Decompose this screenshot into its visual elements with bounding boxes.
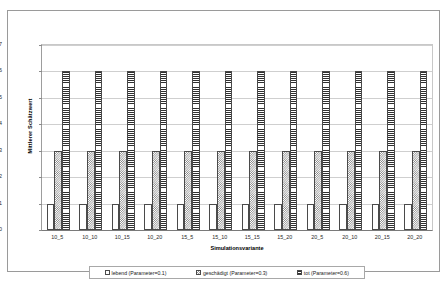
y-axis-tick-label: 0.6 xyxy=(0,67,2,73)
y-axis-tick-label: 0.2 xyxy=(0,173,2,179)
bar-group xyxy=(144,45,167,230)
legend-item[interactable]: tot (Parameter=0.6) xyxy=(297,270,349,276)
bar-group xyxy=(372,45,395,230)
x-axis-tick-label: 20_10 xyxy=(342,234,357,240)
bar xyxy=(282,151,290,230)
plot-area xyxy=(41,44,433,231)
bar xyxy=(307,204,315,230)
bar-group xyxy=(79,45,102,230)
x-axis-title: Simulationsvariante xyxy=(41,245,433,251)
y-axis-tick-label: 0.3 xyxy=(0,147,2,153)
bar xyxy=(412,151,420,230)
x-axis-tick-label: 10_15 xyxy=(115,234,130,240)
bar xyxy=(242,204,250,230)
bar-group xyxy=(307,45,330,230)
bar xyxy=(47,204,55,230)
bar-group xyxy=(177,45,200,230)
y-axis-title: Mittlerer Schätzwert xyxy=(27,61,33,191)
bar xyxy=(339,204,347,230)
bar-group xyxy=(209,45,232,230)
y-axis-tick-label: 0.1 xyxy=(0,200,2,206)
legend-swatch-icon xyxy=(297,270,302,275)
bar xyxy=(314,151,322,230)
bar xyxy=(379,151,387,230)
bar xyxy=(87,151,95,230)
bar xyxy=(119,151,127,230)
bar xyxy=(112,204,120,230)
y-axis-tickmark xyxy=(39,230,42,231)
x-axis-tick-label: 20_15 xyxy=(375,234,390,240)
bar xyxy=(225,71,233,230)
bar xyxy=(177,204,185,230)
chart-screenshot: Mittlerer Schätzwert 0.00.10.20.30.40.50… xyxy=(0,0,447,283)
x-axis-tick-label: 20_5 xyxy=(311,234,323,240)
bars-layer xyxy=(42,45,432,230)
legend-label: geschädigt (Parameter=0.3) xyxy=(203,270,267,276)
bar xyxy=(209,204,217,230)
bar-group xyxy=(112,45,135,230)
x-axis-tick-label: 10_20 xyxy=(147,234,162,240)
x-axis-tick-label: 15_5 xyxy=(181,234,193,240)
y-axis-tick-label: 0.5 xyxy=(0,94,2,100)
bar xyxy=(347,151,355,230)
chart-legend: lebend (Parameter=0.1)geschädigt (Parame… xyxy=(89,266,365,279)
bar xyxy=(95,71,103,230)
bar xyxy=(249,151,257,230)
bar xyxy=(404,204,412,230)
bar xyxy=(144,204,152,230)
bar xyxy=(127,71,135,230)
bar xyxy=(79,204,87,230)
legend-label: lebend (Parameter=0.1) xyxy=(111,270,166,276)
x-axis-tick-label: 15_20 xyxy=(277,234,292,240)
legend-swatch-icon xyxy=(196,270,201,275)
y-axis-tick-label: 0.4 xyxy=(0,120,2,126)
bar-group xyxy=(339,45,362,230)
bar xyxy=(387,71,395,230)
bar xyxy=(62,71,70,230)
bar xyxy=(322,71,330,230)
bar xyxy=(54,151,62,230)
bar xyxy=(217,151,225,230)
bar xyxy=(160,71,168,230)
x-axis-tick-label: 10_10 xyxy=(82,234,97,240)
bar xyxy=(152,151,160,230)
bar xyxy=(274,204,282,230)
bar xyxy=(192,71,200,230)
bar xyxy=(420,71,428,230)
y-axis-tick-label: 0.7 xyxy=(0,41,2,47)
bar xyxy=(184,151,192,230)
bar-group xyxy=(242,45,265,230)
x-axis-tick-label: 10_5 xyxy=(51,234,63,240)
bar xyxy=(257,71,265,230)
y-axis-tick-label: 0.0 xyxy=(0,226,2,232)
legend-swatch-icon xyxy=(105,270,110,275)
x-axis-tick-label: 20_20 xyxy=(407,234,422,240)
legend-label: tot (Parameter=0.6) xyxy=(304,270,349,276)
bar-group xyxy=(47,45,70,230)
bar xyxy=(372,204,380,230)
bar-group xyxy=(274,45,297,230)
chart-frame: Mittlerer Schätzwert 0.00.10.20.30.40.50… xyxy=(7,10,440,272)
legend-item[interactable]: geschädigt (Parameter=0.3) xyxy=(196,270,267,276)
x-axis-tick-label: 15_10 xyxy=(212,234,227,240)
bar-group xyxy=(404,45,427,230)
x-axis-tick-label: 15_15 xyxy=(245,234,260,240)
bar xyxy=(355,71,363,230)
legend-item[interactable]: lebend (Parameter=0.1) xyxy=(105,270,166,276)
bar xyxy=(290,71,298,230)
